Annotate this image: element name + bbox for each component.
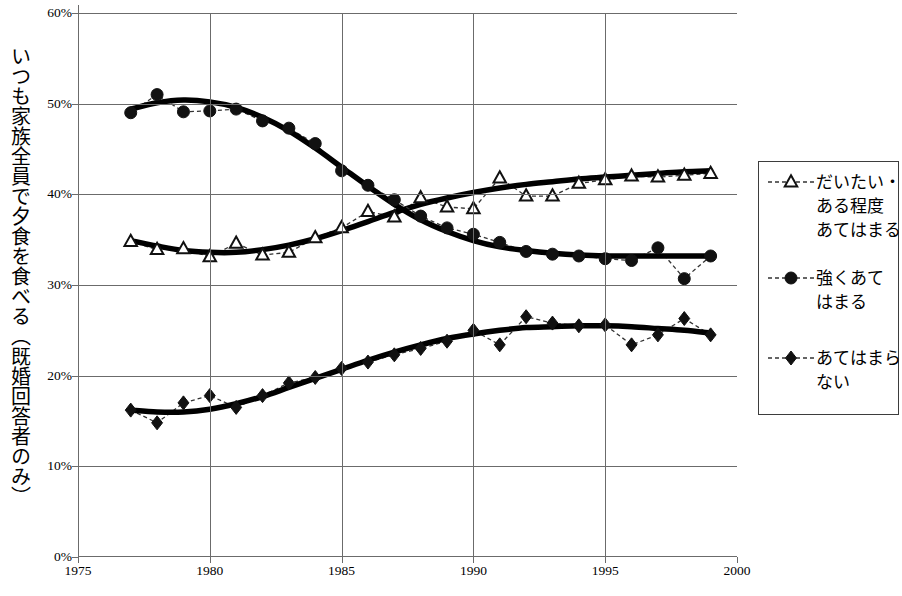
x-tick-label: 1980 [180,563,240,579]
data-point-marker [573,319,584,333]
data-point-marker [230,103,242,115]
legend-marker-filled-circle-icon [766,266,816,286]
gridline-horizontal [78,466,737,467]
data-point-marker [678,273,690,285]
x-tick-label: 1985 [312,563,372,579]
x-tick-label: 1995 [575,563,635,579]
data-point-marker [652,242,664,254]
legend-item-2[interactable]: 強くあて はまる [766,266,884,314]
data-point-marker [152,416,163,430]
y-tick-label: 30% [26,278,72,292]
legend-label: だいたい・ ある程度 あてはまる [816,170,901,242]
data-point-marker [388,194,400,206]
x-tick-label: 1975 [48,563,108,579]
data-point-marker [705,250,717,262]
gridline-vertical [342,13,343,557]
data-point-marker [283,122,295,134]
data-point-marker [626,255,638,267]
x-tick-label: 2000 [707,563,767,579]
gridline-horizontal [78,376,737,377]
data-point-marker [125,403,136,417]
y-tick-label: 40% [26,187,72,201]
data-point-marker [521,310,532,324]
data-point-marker [151,89,163,101]
data-point-marker [415,210,427,222]
gridline-vertical [605,13,606,557]
data-point-marker [177,106,189,118]
legend-marker-open-triangle-icon [766,170,816,190]
data-series [125,310,716,430]
y-tick-label: 0% [26,550,72,564]
data-point-marker [362,205,374,216]
data-point-marker [626,338,637,352]
gridline-horizontal [78,13,737,14]
data-point-marker [494,236,506,248]
data-point-marker [520,245,532,257]
legend-marker-filled-diamond-icon [766,346,816,366]
chart-legend: だいたい・ ある程度 あてはまる強くあて はまるあてはまら ない [758,161,899,415]
data-point-marker [573,250,585,262]
data-point-marker [546,248,558,260]
plot-area [78,13,737,557]
gridline-horizontal [78,194,737,195]
data-point-marker [441,222,453,234]
data-point-marker [494,171,506,182]
y-tick-label: 60% [26,6,72,20]
legend-label: あてはまら ない [816,346,901,394]
legend-label: 強くあて はまる [816,266,884,314]
gridline-vertical [210,13,211,557]
data-point-marker [125,107,137,119]
data-point-marker [257,115,269,127]
data-point-marker [309,138,321,150]
data-point-marker [679,312,690,326]
chart-container: いつも家族全員で夕食を食べる（既婚回答者のみ） 0%10%20%30%40%50… [0,0,902,596]
legend-item-3[interactable]: あてはまら ない [766,346,901,394]
y-tick-label: 10% [26,459,72,473]
data-point-marker [494,338,505,352]
y-tick-label: 20% [26,369,72,383]
data-point-marker [178,396,189,410]
x-tick-label: 1990 [443,563,503,579]
gridline-horizontal [78,104,737,105]
legend-item-1[interactable]: だいたい・ ある程度 あてはまる [766,170,901,242]
gridline-vertical [473,13,474,557]
data-point-marker [230,236,242,247]
y-tick-label: 50% [26,97,72,111]
gridline-horizontal [78,285,737,286]
data-point-marker [362,179,374,191]
data-point-marker [414,191,426,202]
y-axis-tick-labels: 0%10%20%30%40%50%60% [26,0,72,596]
